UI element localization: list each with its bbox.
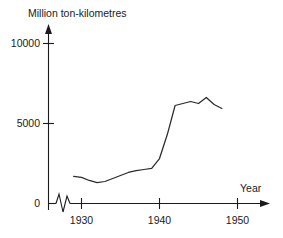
data-series-line xyxy=(74,98,222,183)
axis-break-icon xyxy=(56,194,70,212)
y-tick-label-5000: 5000 xyxy=(17,117,41,129)
x-axis-title: Year xyxy=(240,182,262,194)
y-tick-label-0: 0 xyxy=(34,197,40,209)
x-tick-label-1940: 1940 xyxy=(148,214,172,226)
chart-container: Million ton-kilometres 10000 5000 0 1930… xyxy=(0,0,283,238)
y-axis xyxy=(43,24,54,210)
x-tick-label-1930: 1930 xyxy=(70,214,94,226)
x-tick-label-1950: 1950 xyxy=(226,214,250,226)
y-axis-arrow-icon xyxy=(45,24,52,34)
x-axis-arrow-icon xyxy=(260,200,270,207)
line-chart: Million ton-kilometres 10000 5000 0 1930… xyxy=(0,0,283,238)
x-axis xyxy=(49,194,271,212)
y-tick-label-10000: 10000 xyxy=(11,37,40,49)
y-axis-title: Million ton-kilometres xyxy=(28,7,127,19)
